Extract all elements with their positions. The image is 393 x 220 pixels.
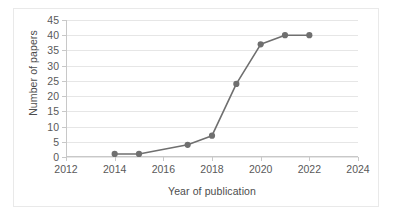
y-axis-title: Number of papers [27, 18, 39, 128]
x-tick-mark [115, 157, 116, 161]
x-tick-mark [358, 157, 359, 161]
data-point-marker [136, 151, 142, 157]
y-tick-label: 15 [47, 105, 59, 117]
y-tick-label: 40 [47, 29, 59, 41]
data-point-marker [258, 41, 264, 47]
data-point-marker [282, 32, 288, 38]
x-tick-label: 2018 [200, 163, 223, 175]
x-tick-label: 2024 [346, 163, 369, 175]
data-point-marker [233, 81, 239, 87]
data-series-line [66, 20, 358, 157]
x-tick-mark [309, 157, 310, 161]
data-point-marker [306, 32, 312, 38]
data-point-marker [209, 133, 215, 139]
data-point-marker [185, 142, 191, 148]
x-tick-mark [212, 157, 213, 161]
y-tick-label: 5 [53, 136, 59, 148]
chart-figure: Number of papers 051015202530354045 2012… [13, 8, 379, 207]
x-tick-label: 2022 [298, 163, 321, 175]
plot-area: 051015202530354045 201220142016201820202… [66, 20, 358, 157]
y-tick-label: 0 [53, 151, 59, 163]
data-point-marker [112, 151, 118, 157]
x-tick-label: 2016 [152, 163, 175, 175]
y-tick-label: 10 [47, 121, 59, 133]
x-tick-label: 2012 [54, 163, 77, 175]
y-tick-label: 35 [47, 44, 59, 56]
x-tick-mark [66, 157, 67, 161]
y-tick-label: 20 [47, 90, 59, 102]
x-tick-mark [261, 157, 262, 161]
y-tick-label: 45 [47, 14, 59, 26]
x-tick-mark [163, 157, 164, 161]
y-tick-label: 25 [47, 75, 59, 87]
x-axis-title: Year of publication [66, 185, 358, 197]
x-tick-label: 2020 [249, 163, 272, 175]
x-tick-label: 2014 [103, 163, 126, 175]
y-tick-label: 30 [47, 60, 59, 72]
